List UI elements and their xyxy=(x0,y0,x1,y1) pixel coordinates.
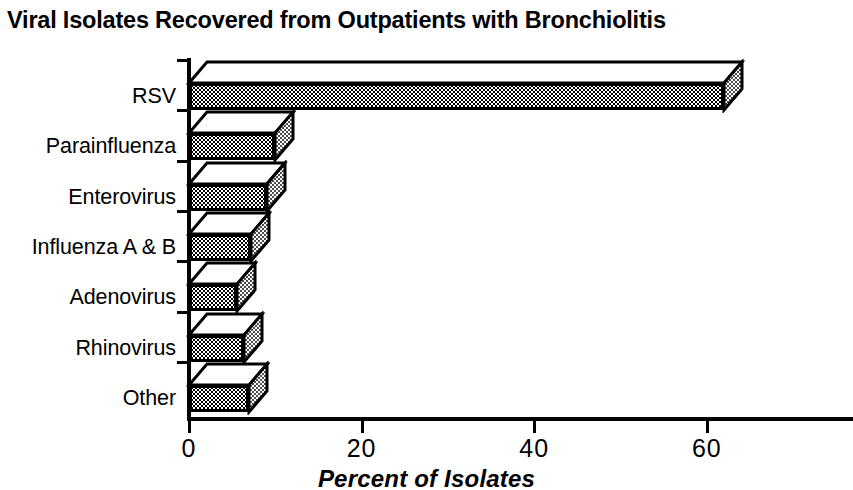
bar-front-face xyxy=(189,385,249,412)
bar-end-cap xyxy=(246,361,270,415)
x-axis-tick-label: 60 xyxy=(677,434,737,462)
x-axis-tick-label: 20 xyxy=(332,434,392,462)
bar-front-face xyxy=(189,133,275,160)
bar-front-face xyxy=(189,184,267,211)
bar-front-face xyxy=(189,234,251,261)
bar-front-face xyxy=(189,335,244,362)
category-label: Rhinovirus xyxy=(75,336,176,360)
x-axis-tick xyxy=(361,421,364,433)
bar-end-cap xyxy=(264,160,288,214)
x-axis-tick xyxy=(533,421,536,433)
category-label: Other xyxy=(123,386,176,410)
bar-top-face xyxy=(186,59,745,86)
x-axis-tick-label: 0 xyxy=(159,434,219,462)
x-axis-tick xyxy=(706,421,709,433)
category-label: Influenza A & B xyxy=(32,235,176,259)
x-axis-title: Percent of Isolates xyxy=(0,466,853,490)
bar-front-face xyxy=(189,284,237,311)
plot-area: RSVParainfluenzaEnterovirusInfluenza A &… xyxy=(0,0,853,490)
bar-end-cap xyxy=(248,210,272,264)
chart-container: Viral Isolates Recovered from Outpatient… xyxy=(0,0,853,490)
bar-end-cap xyxy=(234,260,258,314)
category-label: Adenovirus xyxy=(69,285,176,309)
x-axis-line xyxy=(187,417,853,421)
x-axis-tick-label: 40 xyxy=(504,434,564,462)
bar-end-cap xyxy=(272,109,296,163)
bar-end-cap xyxy=(241,311,265,365)
x-axis-tick xyxy=(188,421,191,433)
category-label: Parainfluenza xyxy=(46,134,176,158)
category-label: Enterovirus xyxy=(68,185,176,209)
bar-front-face xyxy=(189,83,724,110)
bar-end-cap xyxy=(721,59,745,113)
category-label: RSV xyxy=(132,84,176,108)
